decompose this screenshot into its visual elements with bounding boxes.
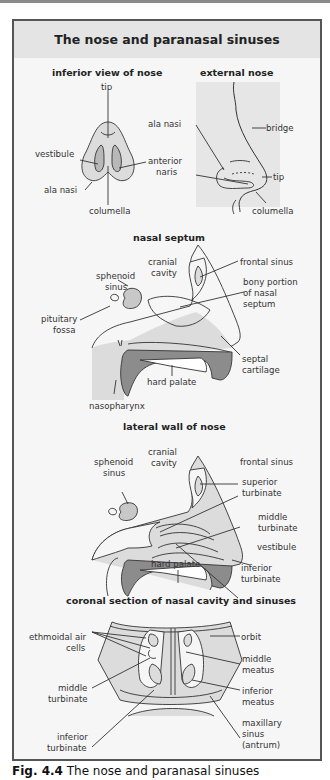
section-title-inferior-view: inferior view of nose — [52, 67, 162, 78]
label-cavity-lateral: cavity — [151, 457, 177, 469]
label-sinus: sinus — [105, 281, 127, 293]
label-frontal-sinus-lateral: frontal sinus — [240, 456, 293, 468]
coronal-drawing — [92, 622, 242, 747]
label-hard-palate: hard palate — [147, 376, 196, 388]
label-inferior-meatus-2: meatus — [242, 696, 274, 708]
label-columella: columella — [89, 205, 131, 217]
section-title-coronal: coronal section of nasal cavity and sinu… — [66, 595, 296, 606]
external-nose-drawing — [196, 82, 280, 214]
label-sinus-lateral: sinus — [103, 467, 125, 479]
section-title-lateral-wall: lateral wall of nose — [123, 421, 226, 432]
label-middle-turbinate-coronal-2: turbinate — [48, 693, 88, 705]
label-cartilage: cartilage — [242, 364, 280, 376]
label-hard-palate-lateral: hard palate — [151, 558, 200, 570]
label-fossa: fossa — [53, 324, 76, 336]
label-tip-external: tip — [273, 171, 284, 183]
label-vestibule: vestibule — [35, 148, 74, 160]
label-inferior-turbinate: turbinate — [241, 573, 281, 585]
label-cells: cells — [66, 642, 85, 654]
label-frontal-sinus: frontal sinus — [240, 256, 293, 268]
label-bridge: bridge — [266, 122, 294, 134]
label-tip: tip — [101, 81, 112, 93]
label-ala-nasi: ala nasi — [44, 184, 77, 196]
inferior-view-drawing — [80, 92, 146, 205]
label-vestibule-lateral: vestibule — [257, 541, 296, 553]
label-inferior-turbinate-coronal-2: turbinate — [47, 742, 87, 754]
label-middle-turbinate: turbinate — [258, 522, 298, 534]
caption-label: Fig. 4.4 — [12, 764, 63, 778]
section-title-external-nose: external nose — [200, 67, 273, 78]
label-ala-nasi-external: ala nasi — [148, 118, 181, 130]
anatomy-illustration — [0, 0, 330, 780]
label-antrum: (antrum) — [242, 739, 280, 751]
label-cavity: cavity — [151, 267, 177, 279]
label-columella-external: columella — [252, 205, 294, 217]
caption-text: The nose and paranasal sinuses — [67, 764, 260, 778]
label-naris: naris — [156, 166, 177, 178]
label-nasopharynx: nasopharynx — [89, 400, 145, 412]
figure-caption: Fig. 4.4 The nose and paranasal sinuses — [12, 764, 259, 780]
label-middle-meatus-2: meatus — [242, 664, 274, 676]
section-title-nasal-septum: nasal septum — [133, 232, 205, 243]
label-orbit: orbit — [241, 631, 261, 643]
label-septum: septum — [243, 298, 275, 310]
label-superior-turbinate: turbinate — [242, 487, 282, 499]
